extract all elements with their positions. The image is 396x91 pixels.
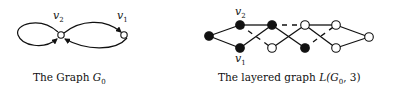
- label-v2-layered: v2: [235, 5, 246, 20]
- caption-left: The Graph G0: [33, 71, 106, 86]
- node-b: [236, 21, 245, 30]
- node-v2: [58, 32, 64, 38]
- edge-h-j: [336, 25, 369, 37]
- edge-v2-v1: [64, 22, 121, 33]
- edge-a-b: [209, 25, 240, 36]
- edge-v1-v2: [65, 38, 127, 48]
- node-a: [205, 32, 214, 41]
- label-v1-left: v1: [117, 9, 128, 24]
- node-f: [301, 21, 310, 30]
- node-e: [268, 44, 277, 53]
- label-v2-left: v2: [53, 9, 64, 24]
- caption-right: The layered graph L(G0, 3): [218, 71, 361, 86]
- node-h: [332, 21, 341, 30]
- node-d: [268, 21, 277, 30]
- edge-i-j: [336, 37, 369, 48]
- node-g: [301, 44, 310, 53]
- node-j: [365, 33, 374, 42]
- self-loop-edge: [18, 23, 58, 46]
- node-c: [236, 44, 245, 53]
- graph-g0: [18, 22, 128, 48]
- node-i: [332, 44, 341, 53]
- edge-a-c: [209, 36, 240, 48]
- label-v1-layered: v1: [235, 52, 246, 67]
- layered-graph: [205, 21, 374, 53]
- node-v1: [121, 32, 127, 38]
